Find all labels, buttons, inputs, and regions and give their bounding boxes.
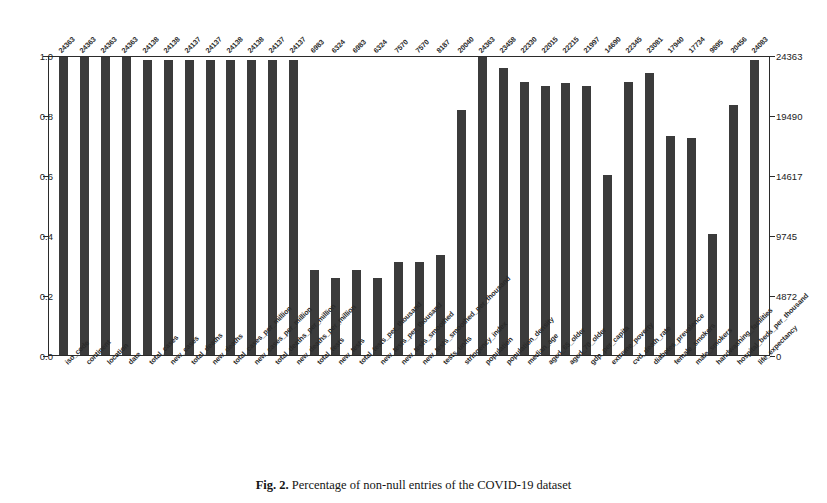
x-tick-label: hospital_beds_per_thousand <box>735 360 741 366</box>
x-tick-label: location <box>105 360 111 366</box>
bar <box>226 60 235 355</box>
bar-value-label: 24138 <box>161 35 181 55</box>
bar-slot <box>179 57 200 355</box>
x-tick-label: male_smokers <box>693 360 699 366</box>
y-tick-label-right: 19490 <box>776 111 827 122</box>
bar-value-label: 24363 <box>56 35 76 55</box>
figure-caption: Fig. 2. Percentage of non-null entries o… <box>0 478 827 493</box>
bar <box>143 60 152 355</box>
bar <box>750 60 759 355</box>
bar <box>122 57 131 355</box>
bar <box>645 73 654 355</box>
bar <box>206 60 215 355</box>
bar-value-label: 24138 <box>140 35 160 55</box>
x-tick-label: aged_70_older <box>567 360 573 366</box>
x-tick-label: new_deaths <box>210 360 216 366</box>
bar-value-label: 23081 <box>644 35 664 55</box>
bar-value-label: 24138 <box>224 35 244 55</box>
x-tick-label: total_cases <box>147 360 153 366</box>
bar <box>561 83 570 355</box>
x-tick-label: life_expectancy <box>756 360 762 366</box>
bar-value-label: 24363 <box>476 35 496 55</box>
bar-slot <box>597 57 618 355</box>
bar-value-label: 23458 <box>497 35 517 55</box>
bar-value-label: 22330 <box>518 35 538 55</box>
bar-value-label: 24138 <box>245 35 265 55</box>
bar-slot <box>723 57 744 355</box>
bar-value-label: 24137 <box>287 35 307 55</box>
bar <box>582 86 591 355</box>
y-tick-mark-right <box>770 116 775 117</box>
bar-slot <box>74 57 95 355</box>
x-tick-label: new_tests_per_thousand <box>378 360 384 366</box>
bar <box>729 105 738 355</box>
y-tick-mark-right <box>770 296 775 297</box>
x-tick-label: iso_code <box>63 360 69 366</box>
x-tick-label: total_tests_per_thousand <box>357 360 363 366</box>
bar-slot <box>241 57 262 355</box>
y-tick-mark-left <box>43 356 48 357</box>
x-tick-label: population_density <box>504 360 510 366</box>
bar <box>624 82 633 355</box>
x-tick-label: cvd_death_rate <box>630 360 636 366</box>
bar-value-label: 17734 <box>686 35 706 55</box>
x-tick-label: new_deaths_per_million <box>294 360 300 366</box>
bar-slot <box>137 57 158 355</box>
x-tick-label: handwashing_facilities <box>714 360 720 366</box>
x-tick-label: total_deaths_per_million <box>273 360 279 366</box>
bar-value-label: 24363 <box>98 35 118 55</box>
y-tick-mark-right <box>770 236 775 237</box>
x-tick-label: aged_65_older <box>546 360 552 366</box>
bar-slot <box>221 57 242 355</box>
bar-value-label: 22015 <box>539 35 559 55</box>
y-tick-mark-right <box>770 56 775 57</box>
x-axis-labels: iso_codecontinentlocationdatetotal_cases… <box>48 358 770 468</box>
bar <box>499 68 508 355</box>
bar-value-label: 24363 <box>77 35 97 55</box>
x-tick-label: extreme_poverty <box>609 360 615 366</box>
x-tick-label: continent <box>84 360 90 366</box>
x-tick-label: total_cases_per_million <box>231 360 237 366</box>
bar-slot <box>514 57 535 355</box>
caption-figure-number: Fig. 2. <box>256 478 289 492</box>
x-tick-label: female_smokers <box>672 360 678 366</box>
y-tick-label-right: 14617 <box>776 171 827 182</box>
y-tick-label-right: 24363 <box>776 51 827 62</box>
bar-slot <box>660 57 681 355</box>
x-tick-label: tests_units <box>441 360 447 366</box>
bar <box>268 60 277 355</box>
bar-value-label: 21997 <box>581 35 601 55</box>
bar-slot <box>702 57 723 355</box>
x-tick-label: diabetes_prevalence <box>651 360 657 366</box>
bar <box>80 57 89 355</box>
y-tick-mark-left <box>43 296 48 297</box>
y-tick-mark-left <box>43 236 48 237</box>
bar <box>164 60 173 355</box>
bar-value-label: 22345 <box>623 35 643 55</box>
x-tick-label: total_deaths <box>189 360 195 366</box>
bar <box>101 57 110 355</box>
x-tick-label: new_cases <box>168 360 174 366</box>
bar-slot <box>158 57 179 355</box>
bar-slot <box>618 57 639 355</box>
bar-slot <box>639 57 660 355</box>
bar-value-label: 24137 <box>203 35 223 55</box>
bar-slot <box>116 57 137 355</box>
bar-value-label: 6324 <box>371 38 388 55</box>
figure-container: 2436324363243632436324138241382413724137… <box>0 0 827 503</box>
bar-value-label: 14690 <box>602 35 622 55</box>
x-tick-label: stringency_index <box>462 360 468 366</box>
bar-value-label: 20456 <box>728 35 748 55</box>
bar-value-label: 24363 <box>119 35 139 55</box>
bar-value-label: 9895 <box>707 38 724 55</box>
x-tick-label: gdp_per_capita <box>588 360 594 366</box>
bar-value-label: 7570 <box>392 38 409 55</box>
x-tick-label: total_tests <box>315 360 321 366</box>
bar-slot <box>200 57 221 355</box>
y-tick-label-right: 0 <box>776 351 827 362</box>
bar-slot <box>53 57 74 355</box>
bar <box>520 82 529 355</box>
y-tick-mark-right <box>770 176 775 177</box>
y-tick-mark-left <box>43 116 48 117</box>
x-tick-label: new_tests_smoothed_per_thousand <box>420 360 426 366</box>
